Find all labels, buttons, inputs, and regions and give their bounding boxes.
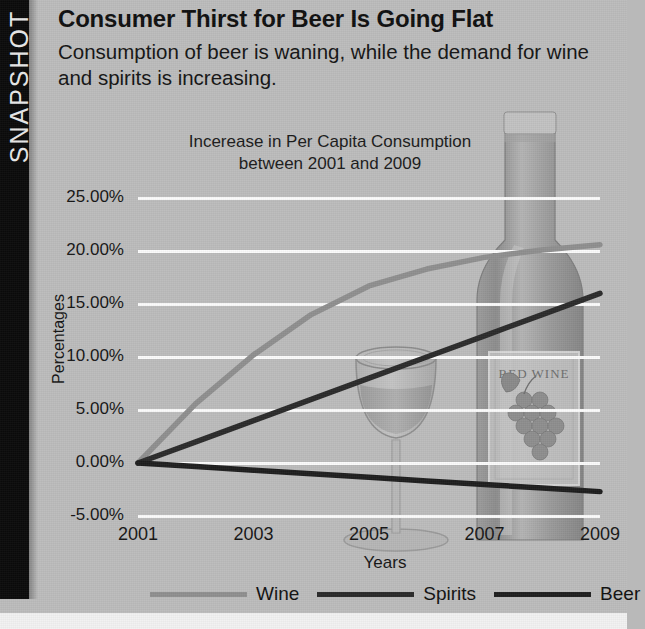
series-line-beer bbox=[138, 463, 600, 492]
legend-label-beer: Beer bbox=[600, 583, 640, 605]
series-line-spirits bbox=[138, 293, 600, 463]
legend-swatch-wine bbox=[150, 592, 247, 597]
legend-swatch-beer bbox=[494, 592, 591, 597]
legend-item-spirits[interactable]: Spirits bbox=[317, 583, 476, 605]
snapshot-rail-label: SNAPSHOT bbox=[5, 2, 34, 172]
legend-swatch-spirits bbox=[317, 592, 414, 597]
page-title: Consumer Thirst for Beer Is Going Flat bbox=[58, 4, 614, 34]
legend-item-wine[interactable]: Wine bbox=[150, 583, 299, 605]
legend-item-beer[interactable]: Beer bbox=[494, 583, 640, 605]
headline-block: Consumer Thirst for Beer Is Going Flat C… bbox=[58, 4, 614, 91]
chart-title-line-1: Incerease in Per Capita Consumption bbox=[160, 131, 500, 153]
chart-title: Incerease in Per Capita Consumption betw… bbox=[160, 131, 500, 175]
legend-label-spirits: Spirits bbox=[423, 583, 476, 605]
chart-legend: Wine Spirits Beer bbox=[150, 583, 620, 605]
page-subtitle: Consumption of beer is waning, while the… bbox=[58, 39, 614, 91]
legend-label-wine: Wine bbox=[256, 583, 299, 605]
bottom-strip bbox=[0, 613, 627, 629]
chart-title-line-2: between 2001 and 2009 bbox=[160, 153, 500, 175]
snapshot-rail: SNAPSHOT bbox=[0, 0, 29, 599]
series-line-wine bbox=[138, 245, 600, 463]
